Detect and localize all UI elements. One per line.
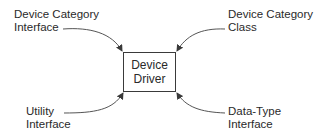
label-line-1: Device Category xyxy=(228,8,313,21)
label-line-1: Data-Type xyxy=(228,105,281,118)
label-data-type-interface: Data-Type Interface xyxy=(228,105,281,130)
label-line-1: Device Category xyxy=(14,8,99,21)
box-line-2: Driver xyxy=(134,72,166,86)
label-device-category-class: Device Category Class xyxy=(228,8,313,33)
arrow-top-right xyxy=(177,29,225,51)
arrow-bottom-right xyxy=(177,93,225,113)
device-driver-box: Device Driver xyxy=(123,52,176,92)
arrow-bottom-left xyxy=(64,93,123,113)
label-line-2: Interface xyxy=(228,118,281,131)
label-device-category-interface: Device Category Interface xyxy=(14,8,99,33)
box-line-1: Device xyxy=(131,58,168,72)
label-line-2: Interface xyxy=(14,21,99,34)
label-line-2: Interface xyxy=(26,118,71,131)
label-utility-interface: Utility Interface xyxy=(26,105,71,130)
label-line-1: Utility xyxy=(26,105,71,118)
label-line-2: Class xyxy=(228,21,313,34)
